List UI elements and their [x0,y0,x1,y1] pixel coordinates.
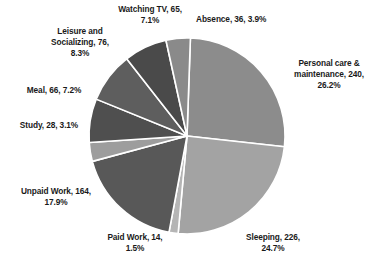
slice-label-sleeping: Sleeping, 226, 24.7% [228,232,318,254]
slice-label-personal-care: Personal care & maintenance, 240, 26.2% [286,58,372,91]
pie-slice-personal-care [187,38,285,147]
slice-label-study: Study, 28, 3.1% [4,120,94,131]
slice-label-leisure-socializing: Leisure and Socializing, 76, 8.3% [34,26,126,59]
slice-label-paid-work: Paid Work, 14, 1.5% [92,232,178,254]
slice-label-watching-tv: Watching TV, 65, 7.1% [108,4,192,26]
slice-label-absence: Absence, 36, 3.9% [196,14,300,25]
slice-label-meal: Meal, 66, 7.2% [10,85,98,96]
pie-slice-sleeping [178,136,284,234]
pie-chart: Watching TV, 65, 7.1% Absence, 36, 3.9% … [0,0,373,267]
slice-label-unpaid-work: Unpaid Work, 164, 17.9% [4,186,108,208]
